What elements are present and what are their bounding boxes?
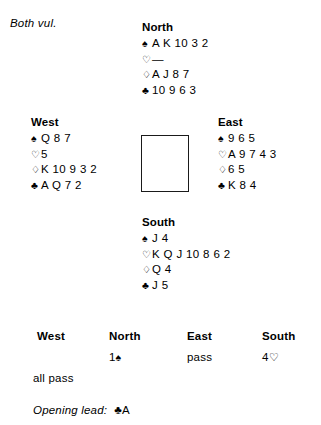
auction-header-row: West North East South — [0, 330, 321, 351]
east-club-cards: K 8 4 — [228, 178, 257, 194]
heart-icon: ♡ — [218, 147, 228, 163]
diamond-icon: ♢ — [142, 262, 152, 278]
north-diamond-cards: A J 8 7 — [152, 67, 190, 83]
north-spade-row: ♠A K 10 3 2 — [142, 36, 209, 52]
south-heart-row: ♡K Q J 10 8 6 2 — [142, 247, 230, 263]
auction-bid-east: pass — [187, 351, 212, 363]
south-heart-cards: K Q J 10 8 6 2 — [152, 247, 230, 263]
auction-bid-north-level: 1 — [109, 351, 116, 363]
east-heart-cards: A 9 7 4 3 — [228, 147, 277, 163]
club-icon: ♣ — [218, 178, 228, 194]
north-club-cards: 10 9 6 3 — [152, 83, 196, 99]
heart-icon: ♡ — [31, 147, 41, 163]
east-heart-row: ♡A 9 7 4 3 — [218, 147, 277, 163]
heart-icon: ♡ — [142, 247, 152, 263]
auction-header-north: North — [109, 330, 141, 342]
hand-west: West ♠Q 8 7 ♡5 ♢K 10 9 3 2 ♣A Q 7 2 — [31, 115, 97, 193]
bridge-deal-diagram: Both vul. North ♠A K 10 3 2 ♡— ♢A J 8 7 … — [0, 0, 321, 425]
south-club-row: ♣J 5 — [142, 278, 230, 294]
spade-icon: ♠ — [142, 231, 152, 247]
west-heart-row: ♡5 — [31, 147, 97, 163]
hand-label-south: South — [142, 215, 230, 230]
opening-lead-rank: A — [122, 404, 130, 416]
east-diamond-row: ♢6 5 — [218, 162, 277, 178]
club-icon: ♣ — [142, 83, 152, 99]
spade-icon: ♠ — [116, 351, 122, 363]
north-heart-row: ♡— — [142, 52, 209, 68]
auction-header-west: West — [37, 330, 65, 342]
east-diamond-cards: 6 5 — [228, 162, 245, 178]
hand-label-west: West — [31, 115, 97, 130]
west-diamond-row: ♢K 10 9 3 2 — [31, 162, 97, 178]
auction-all-pass: all pass — [33, 372, 74, 384]
diamond-icon: ♢ — [142, 67, 152, 83]
auction-table: West North East South 1♠ pass 4♡ — [0, 330, 321, 372]
heart-icon: ♡ — [142, 52, 152, 68]
auction-bid-south-level: 4 — [262, 351, 269, 363]
west-club-cards: A Q 7 2 — [41, 178, 82, 194]
auction-header-south: South — [262, 330, 296, 342]
auction-header-east: East — [187, 330, 212, 342]
diamond-icon: ♢ — [218, 162, 228, 178]
west-heart-cards: 5 — [41, 147, 48, 163]
west-spade-row: ♠Q 8 7 — [31, 131, 97, 147]
east-spade-row: ♠9 6 5 — [218, 131, 277, 147]
west-diamond-cards: K 10 9 3 2 — [41, 162, 97, 178]
club-icon: ♣ — [31, 178, 41, 194]
south-spade-cards: J 4 — [152, 231, 168, 247]
club-icon: ♣ — [114, 404, 122, 416]
club-icon: ♣ — [142, 278, 152, 294]
vulnerability-note: Both vul. — [10, 17, 57, 29]
heart-icon: ♡ — [269, 351, 279, 363]
opening-lead-label: Opening lead: — [33, 404, 107, 416]
north-heart-cards: — — [152, 52, 164, 68]
opening-lead-card: ♣A — [114, 404, 130, 416]
auction-bid-north: 1♠ — [109, 351, 121, 363]
west-club-row: ♣A Q 7 2 — [31, 178, 97, 194]
hand-east: East ♠9 6 5 ♡A 9 7 4 3 ♢6 5 ♣K 8 4 — [218, 115, 277, 193]
spade-icon: ♠ — [142, 36, 152, 52]
south-diamond-cards: Q 4 — [152, 262, 172, 278]
deal-center-box — [141, 135, 189, 192]
south-diamond-row: ♢Q 4 — [142, 262, 230, 278]
east-club-row: ♣K 8 4 — [218, 178, 277, 194]
south-club-cards: J 5 — [152, 278, 168, 294]
hand-label-north: North — [142, 20, 209, 35]
spade-icon: ♠ — [218, 131, 228, 147]
hand-north: North ♠A K 10 3 2 ♡— ♢A J 8 7 ♣10 9 6 3 — [142, 20, 209, 98]
hand-label-east: East — [218, 115, 277, 130]
auction-round-1: 1♠ pass 4♡ — [0, 351, 321, 372]
east-spade-cards: 9 6 5 — [228, 131, 255, 147]
west-spade-cards: Q 8 7 — [41, 131, 71, 147]
north-club-row: ♣10 9 6 3 — [142, 83, 209, 99]
opening-lead: Opening lead:♣A — [33, 404, 130, 416]
north-spade-cards: A K 10 3 2 — [152, 36, 209, 52]
diamond-icon: ♢ — [31, 162, 41, 178]
spade-icon: ♠ — [31, 131, 41, 147]
south-spade-row: ♠J 4 — [142, 231, 230, 247]
auction-bid-south: 4♡ — [262, 351, 279, 363]
north-diamond-row: ♢A J 8 7 — [142, 67, 209, 83]
hand-south: South ♠J 4 ♡K Q J 10 8 6 2 ♢Q 4 ♣J 5 — [142, 215, 230, 293]
